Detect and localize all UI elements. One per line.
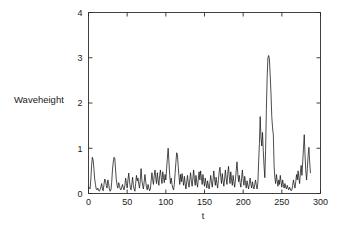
- x-tick-label: 50: [122, 197, 132, 207]
- y-tick-label: 3: [77, 53, 82, 63]
- chart-background: [0, 0, 337, 227]
- y-tick-label: 0: [77, 189, 82, 199]
- y-tick-label: 1: [77, 144, 82, 154]
- y-tick-label: 2: [77, 98, 82, 108]
- x-tick-label: 150: [197, 197, 212, 207]
- waveheight-line-chart: 05010015020025030001234 t Waveheight: [0, 0, 337, 227]
- x-tick-label: 200: [236, 197, 251, 207]
- y-axis-title: Waveheight: [14, 94, 64, 105]
- x-tick-label: 100: [158, 197, 173, 207]
- x-tick-label: 250: [274, 197, 289, 207]
- x-tick-label: 0: [86, 197, 91, 207]
- y-tick-label: 4: [77, 8, 82, 18]
- figure-container: 05010015020025030001234 t Waveheight: [0, 0, 337, 227]
- x-tick-label: 300: [313, 197, 328, 207]
